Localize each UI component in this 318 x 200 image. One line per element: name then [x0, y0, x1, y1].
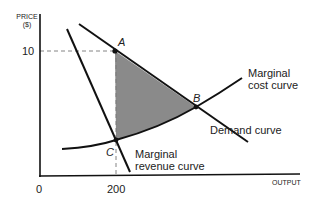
marginal-revenue-curve-label: Marginal revenue curve — [135, 148, 205, 172]
point-c-label: C — [106, 146, 114, 158]
point-b-label: B — [193, 92, 200, 104]
x-tick-200: 200 — [107, 183, 125, 195]
point-a-marker — [112, 48, 117, 53]
x-axis-label: OUTPUT — [272, 179, 301, 187]
point-a-label: A — [118, 36, 125, 48]
y-axis-label: PRICE ($) — [14, 13, 40, 28]
x-axis — [39, 174, 300, 176]
point-c-marker — [114, 138, 119, 143]
point-b-marker — [194, 105, 199, 110]
y-tick-10: 10 — [22, 45, 34, 57]
demand-curve-label: Demand curve — [210, 124, 282, 136]
x-tick-0: 0 — [36, 183, 42, 195]
marginal-cost-curve-label: Marginal cost curve — [248, 67, 298, 91]
